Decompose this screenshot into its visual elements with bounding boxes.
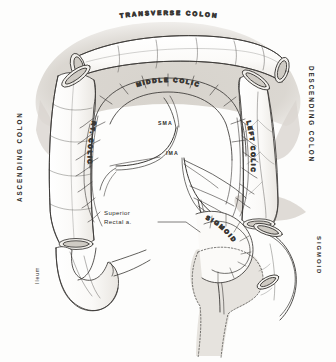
anatomical-figure: TRANSVERSE COLON MIDDLE COLIC RT. COLIC … bbox=[0, 0, 336, 362]
superior-rectal-leader-line bbox=[158, 222, 200, 232]
sma-vessel bbox=[100, 96, 179, 196]
ink-layer: TRANSVERSE COLON MIDDLE COLIC RT. COLIC … bbox=[0, 0, 336, 362]
cecum-ileum-shape bbox=[56, 247, 150, 311]
label-transverse-colon: TRANSVERSE COLON bbox=[119, 9, 219, 19]
marginal-artery-arcade bbox=[88, 74, 246, 168]
